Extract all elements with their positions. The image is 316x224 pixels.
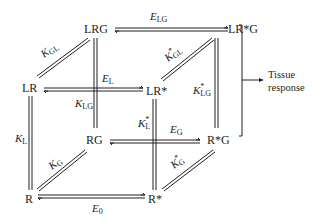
- node-lrs: LR*: [146, 84, 167, 98]
- edge-rg-rsg: [110, 138, 200, 145]
- node-rs: R*: [148, 192, 162, 206]
- edge-r-rs: [38, 193, 145, 200]
- edge-lrs-rs: [153, 99, 156, 190]
- label-e-0: E0: [91, 202, 103, 216]
- label-k-gl: KGL: [37, 39, 61, 62]
- node-lrsg: LR*G: [228, 22, 258, 36]
- edge-lr-r: [29, 96, 32, 190]
- label-e-l: EL: [101, 72, 114, 86]
- edge-lrg-lrsg: [115, 26, 228, 33]
- label-e-lg: ELG: [149, 10, 168, 24]
- label-k-l: KL: [14, 132, 27, 146]
- node-rg: RG: [86, 133, 103, 147]
- label-k-g-star: K*G: [166, 151, 187, 172]
- edge-r-rg: [37, 150, 87, 191]
- edge-lrg-rg: [94, 38, 97, 128]
- node-lr: LR: [22, 81, 37, 95]
- output-tissue: Tissue: [268, 69, 295, 80]
- edge-lrsg-rsg: [215, 38, 218, 128]
- label-k-g: KG: [45, 154, 65, 174]
- cube-diagram: ELG KGL K*GL EL KLG K*LG KL K*L: [0, 0, 316, 224]
- response-bracket: [239, 25, 264, 136]
- edge-rs-rsg: [162, 150, 215, 191]
- output-response: response: [268, 82, 305, 93]
- label-k-lg-star: K*LG: [192, 82, 211, 98]
- node-lrg: LRG: [84, 22, 108, 36]
- label-e-g: EG: [169, 123, 183, 137]
- node-rsg: R*G: [207, 133, 230, 147]
- label-k-l-star: K*L: [137, 115, 150, 131]
- node-r: R: [25, 192, 33, 206]
- label-k-gl-star: K*GL: [160, 41, 185, 65]
- label-k-lg: KLG: [74, 97, 93, 111]
